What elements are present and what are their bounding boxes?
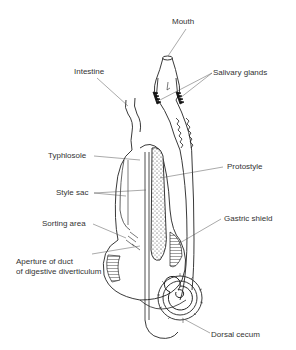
dorsal-cecum	[145, 273, 203, 338]
label-gastric-shield: Gastric shield	[224, 214, 272, 224]
gastric-shield	[170, 232, 182, 267]
label-aperture-line2: of digestive diverticulum	[16, 267, 101, 277]
label-mouth: Mouth	[172, 17, 194, 27]
label-sorting-area: Sorting area	[42, 219, 86, 229]
label-aperture-line1: Aperture of duct	[16, 257, 73, 267]
label-dorsal-cecum: Dorsal cecum	[211, 330, 260, 340]
label-typhlosole: Typhlosole	[48, 151, 86, 161]
sorting-area-hatch-left	[107, 255, 120, 282]
label-protostyle: Protostyle	[227, 162, 263, 172]
label-style-sac: Style sac	[56, 188, 88, 198]
label-intestine: Intestine	[74, 67, 104, 77]
diagram-artwork	[0, 0, 296, 350]
label-salivary-glands: Salivary glands	[213, 68, 267, 78]
stomach	[103, 144, 185, 320]
digestive-system-diagram: Mouth Intestine Salivary glands Typhloso…	[0, 0, 296, 350]
